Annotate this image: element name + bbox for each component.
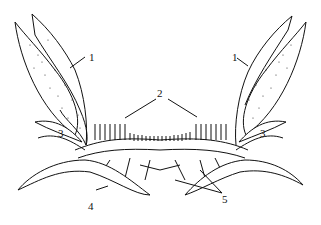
label-4: 4 <box>88 201 94 212</box>
pointer-4 <box>96 186 108 190</box>
pointer-2-left <box>125 99 156 118</box>
pointer-2-right <box>168 99 197 117</box>
diagram-drawing <box>0 0 321 225</box>
label-2: 2 <box>157 88 163 99</box>
label-1-left: 1 <box>89 52 95 63</box>
label-3-right: 3 <box>260 128 266 139</box>
diagram-canvas: 1 1 2 3 3 4 5 <box>0 0 321 225</box>
label-5: 5 <box>222 194 228 205</box>
label-1-right: 1 <box>232 52 238 63</box>
label-3-left: 3 <box>58 128 64 139</box>
